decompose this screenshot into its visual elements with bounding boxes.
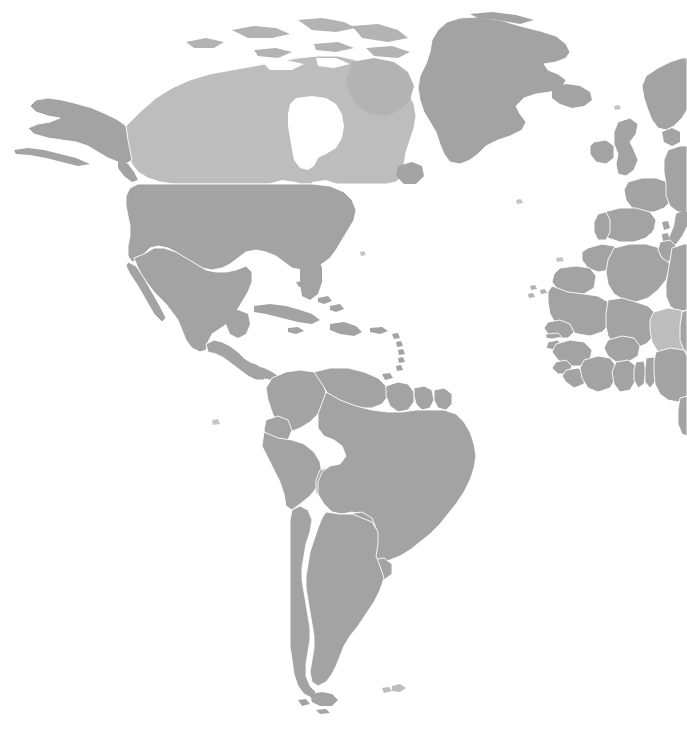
map-viewport[interactable] (0, 0, 687, 729)
country-togo[interactable] (634, 361, 646, 388)
world-map[interactable] (0, 0, 687, 729)
country-portugal[interactable] (594, 212, 610, 240)
